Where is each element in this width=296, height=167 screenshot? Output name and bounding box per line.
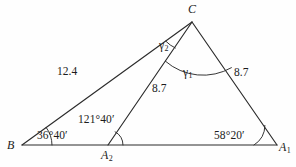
side-label-bc: 12.4 <box>57 66 77 78</box>
segment-a2-c <box>108 22 192 145</box>
vertex-label-b: B <box>7 139 14 151</box>
geometry-canvas <box>0 0 296 167</box>
vertex-label-c: C <box>188 3 196 15</box>
vertex-label-a2: A2 <box>101 149 113 163</box>
vertex-label-a2-subscript: 2 <box>109 154 113 163</box>
gamma1-subscript: 1 <box>188 71 192 80</box>
side-label-ca1: 8.7 <box>234 67 248 79</box>
gamma2-subscript: 2 <box>164 44 168 53</box>
vertex-label-a1: A1 <box>279 141 291 155</box>
angle-label-a1: 58°20′ <box>214 130 245 142</box>
vertex-label-a1-subscript: 1 <box>287 146 291 155</box>
side-label-ca2: 8.7 <box>152 83 166 95</box>
vertex-label-a1-base: A <box>279 140 286 154</box>
angle-label-gamma2: γ2 <box>159 40 168 53</box>
angle-arc-a1 <box>254 125 265 145</box>
segment-a1-c <box>192 22 277 145</box>
angle-label-a2: 121°40′ <box>78 114 115 126</box>
angle-label-gamma1: γ1 <box>183 67 192 80</box>
vertex-label-a2-base: A <box>101 148 108 162</box>
angle-arc-gamma1 <box>165 61 231 75</box>
angle-label-b: 36°40′ <box>37 130 68 142</box>
geometry-figure: B C A1 A2 36°40′ 121°40′ 58°20′ γ2 γ1 12… <box>0 0 296 167</box>
